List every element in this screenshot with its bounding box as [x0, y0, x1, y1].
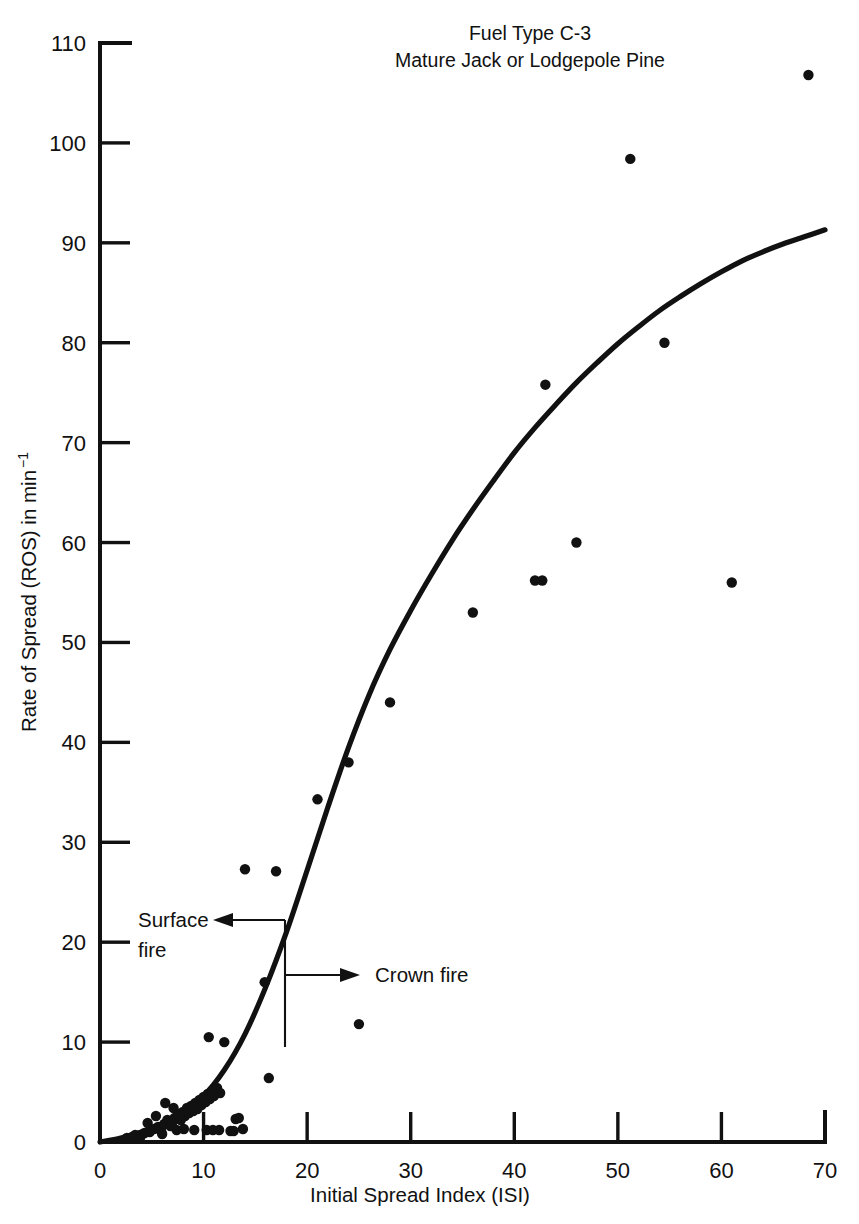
data-point — [571, 537, 581, 547]
y-tick-label-60: 60 — [62, 531, 86, 556]
chart-title-group: Fuel Type C-3 Mature Jack or Lodgepole P… — [395, 22, 665, 71]
y-tick-label-40: 40 — [62, 730, 86, 755]
data-point — [354, 1019, 364, 1029]
data-point — [659, 338, 669, 348]
x-tick-label-50: 50 — [606, 1158, 630, 1183]
y-tick-label-20: 20 — [62, 930, 86, 955]
x-axis-title: Initial Spread Index (ISI) — [310, 1183, 530, 1206]
data-point — [468, 607, 478, 617]
x-axis-ticks: 010203040506070 — [94, 1112, 837, 1183]
data-point — [151, 1111, 161, 1121]
axis-titles-group: Initial Spread Index (ISI) Rate of Sprea… — [15, 452, 530, 1206]
y-axis-title-exponent: −1 — [15, 452, 31, 468]
data-point — [157, 1129, 167, 1139]
chart-subtitle: Mature Jack or Lodgepole Pine — [395, 49, 665, 71]
data-point — [214, 1125, 224, 1135]
data-point — [727, 577, 737, 587]
surface-fire-label-line2: fire — [138, 938, 166, 961]
crown-fire-arrowhead-icon — [340, 968, 360, 982]
y-tick-label-50: 50 — [62, 630, 86, 655]
data-point — [189, 1125, 199, 1135]
data-point — [240, 864, 250, 874]
x-tick-label-40: 40 — [502, 1158, 526, 1183]
data-point — [142, 1118, 152, 1128]
data-point — [228, 1126, 238, 1136]
y-tick-label-10: 10 — [62, 1030, 86, 1055]
data-point — [179, 1124, 189, 1134]
data-point — [540, 379, 550, 389]
data-point — [234, 1113, 244, 1123]
chart-title: Fuel Type C-3 — [469, 22, 591, 44]
y-tick-label-90: 90 — [62, 231, 86, 256]
data-point — [537, 575, 547, 585]
y-axis-title-main: Rate of Spread (ROS) in min — [17, 470, 40, 732]
x-tick-label-20: 20 — [295, 1158, 319, 1183]
ros-isi-scatter-chart: Fuel Type C-3 Mature Jack or Lodgepole P… — [0, 0, 859, 1224]
y-axis-ticks: 0102030405060708090100110 — [49, 31, 130, 1155]
surface-fire-arrowhead-icon — [213, 913, 233, 927]
crown-fire-label: Crown fire — [375, 963, 468, 986]
y-tick-label-0: 0 — [74, 1130, 86, 1155]
data-point — [168, 1103, 178, 1113]
data-point — [259, 977, 269, 987]
x-tick-label-30: 30 — [398, 1158, 422, 1183]
fitted-ros-curve — [100, 230, 825, 1142]
chart-page: Fuel Type C-3 Mature Jack or Lodgepole P… — [0, 0, 859, 1224]
data-point — [204, 1032, 214, 1042]
data-point — [264, 1073, 274, 1083]
data-point — [803, 70, 813, 80]
data-point — [343, 757, 353, 767]
fit-curve-group — [100, 230, 825, 1142]
x-tick-label-60: 60 — [709, 1158, 733, 1183]
y-tick-label-70: 70 — [62, 431, 86, 456]
x-tick-label-70: 70 — [813, 1158, 837, 1183]
y-axis-title-group: Rate of Spread (ROS) in min−1 — [15, 452, 40, 732]
data-point — [271, 866, 281, 876]
crown-fire-annotation: Crown fire — [285, 963, 468, 986]
x-tick-label-0: 0 — [94, 1158, 106, 1183]
surface-fire-label-line1: Surface — [138, 908, 209, 931]
x-tick-label-10: 10 — [191, 1158, 215, 1183]
y-axis-title: Rate of Spread (ROS) in min−1 — [15, 452, 40, 732]
data-point — [219, 1037, 229, 1047]
data-point — [215, 1088, 225, 1098]
y-tick-label-110: 110 — [51, 31, 86, 56]
data-point — [385, 697, 395, 707]
data-point — [625, 154, 635, 164]
data-point — [312, 794, 322, 804]
data-point — [238, 1124, 248, 1134]
y-tick-label-80: 80 — [62, 331, 86, 356]
y-tick-label-100: 100 — [49, 131, 86, 156]
y-tick-label-30: 30 — [62, 830, 86, 855]
